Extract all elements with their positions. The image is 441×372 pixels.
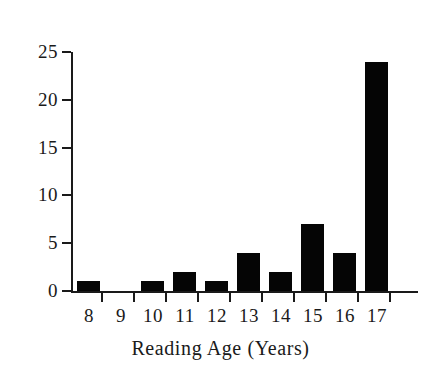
y-axis-tick-mark — [62, 194, 71, 196]
bar — [141, 281, 164, 291]
y-axis-tick-label: 10 — [0, 185, 58, 204]
bar-chart: 0510152025 891011121314151617 Reading Ag… — [0, 0, 441, 372]
x-axis-tick-mark — [293, 293, 295, 302]
x-axis-tick-mark — [357, 293, 359, 302]
y-axis-tick-label: 25 — [0, 42, 58, 61]
x-axis-tick-mark — [261, 293, 263, 302]
bar — [333, 253, 356, 291]
bar — [205, 281, 228, 291]
y-axis-line — [71, 52, 73, 293]
bar — [365, 62, 388, 291]
x-axis-tick-mark — [133, 293, 135, 302]
y-axis-tick-mark — [62, 147, 71, 149]
y-axis-tick-label: 20 — [0, 90, 58, 109]
x-axis-line — [71, 291, 418, 293]
x-axis-tick-mark — [101, 293, 103, 302]
y-axis-tick-mark — [62, 51, 71, 53]
y-axis-tick-mark — [62, 99, 71, 101]
y-axis-tick-label: 0 — [0, 281, 58, 300]
bar — [301, 224, 324, 291]
x-axis-tick-mark — [229, 293, 231, 302]
x-axis-tick-mark — [389, 293, 391, 302]
y-axis-tick-label: 5 — [0, 233, 58, 252]
bar — [237, 253, 260, 291]
x-axis-title: Reading Age (Years) — [0, 336, 441, 360]
y-axis-tick-label: 15 — [0, 138, 58, 157]
plot-area: 0510152025 891011121314151617 Reading Ag… — [0, 0, 441, 372]
y-axis-tick-mark — [62, 242, 71, 244]
bar — [77, 281, 100, 291]
x-axis-tick-label: 17 — [357, 305, 397, 327]
x-axis-tick-mark — [325, 293, 327, 302]
bar — [173, 272, 196, 291]
x-axis-tick-mark — [165, 293, 167, 302]
bar — [269, 272, 292, 291]
x-axis-tick-mark — [197, 293, 199, 302]
y-axis-tick-mark — [62, 290, 71, 292]
